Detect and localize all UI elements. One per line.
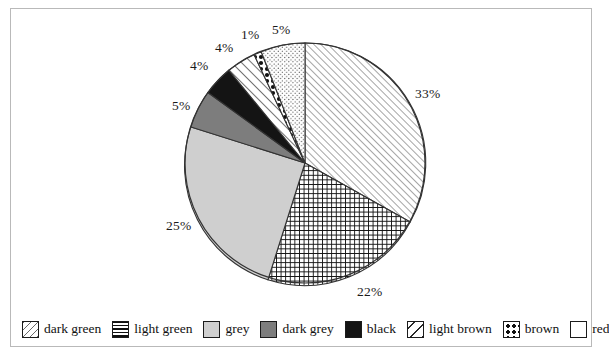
chart-legend: dark green light green grey dark grey bl…: [22, 316, 582, 342]
legend-label-brown: brown: [525, 321, 560, 337]
slice-label-black: 4%: [190, 58, 208, 74]
slice-label-dark-green: 33%: [415, 86, 440, 102]
swatch-red-icon: [570, 321, 587, 338]
legend-item-brown[interactable]: brown: [503, 321, 560, 338]
swatch-black-icon: [345, 321, 362, 338]
legend-label-grey: grey: [225, 321, 249, 337]
legend-item-black[interactable]: black: [345, 321, 396, 338]
legend-label-dark-green: dark green: [44, 321, 101, 337]
legend-label-black: black: [367, 321, 396, 337]
legend-item-red[interactable]: red: [570, 321, 609, 338]
swatch-dark-grey-icon: [260, 321, 277, 338]
legend-item-dark-green[interactable]: dark green: [22, 321, 101, 338]
legend-label-light-brown: light brown: [429, 321, 492, 337]
legend-item-dark-grey[interactable]: dark grey: [260, 321, 333, 338]
legend-item-grey[interactable]: grey: [203, 321, 249, 338]
legend-label-red: red: [592, 321, 609, 337]
slice-label-light-brown: 4%: [215, 40, 233, 56]
slice-label-grey: 25%: [166, 218, 191, 234]
slice-label-light-green: 22%: [357, 284, 382, 300]
legend-label-dark-grey: dark grey: [282, 321, 333, 337]
legend-item-light-green[interactable]: light green: [112, 321, 192, 338]
swatch-dark-green-icon: [22, 321, 39, 338]
swatch-light-brown-icon: [407, 321, 424, 338]
legend-item-light-brown[interactable]: light brown: [407, 321, 492, 338]
swatch-brown-icon: [503, 321, 520, 338]
legend-label-light-green: light green: [134, 321, 192, 337]
slice-label-brown: 1%: [241, 27, 259, 43]
slice-label-dark-grey: 5%: [172, 98, 190, 114]
swatch-light-green-icon: [112, 321, 129, 338]
swatch-grey-icon: [203, 321, 220, 338]
pie-chart-svg: [0, 0, 603, 310]
slice-label-red: 5%: [272, 22, 290, 38]
pie-chart-plot: 33% 22% 25% 5% 4% 4% 1% 5%: [0, 0, 603, 310]
